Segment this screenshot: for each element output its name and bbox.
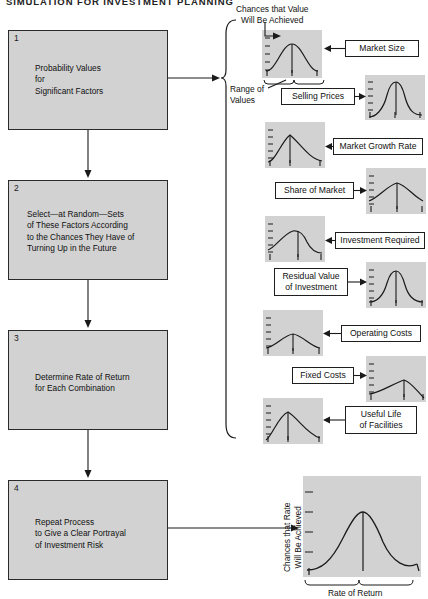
factor-label-share-of-market[interactable]: Share of Market xyxy=(275,182,354,199)
process-box-3-text: Determine Rate of Return for Each Combin… xyxy=(35,372,130,395)
distribution-chart-market-size xyxy=(262,30,322,78)
distribution-chart-share-of-market xyxy=(366,168,426,214)
factor-label-market-size[interactable]: Market Size xyxy=(345,40,419,57)
factor-label-operating-costs[interactable]: Operating Costs xyxy=(341,325,421,342)
factor-label-useful-life[interactable]: Useful Life of Facilities xyxy=(345,406,417,434)
distribution-chart-market-growth-rate xyxy=(265,122,325,168)
distribution-chart-residual-value xyxy=(366,262,426,308)
process-box-2-number: 2 xyxy=(14,183,19,193)
process-box-2[interactable]: 2 Select—at Random—Sets of These Factors… xyxy=(8,180,168,280)
page-title: SIMULATION FOR INVESTMENT PLANNING xyxy=(6,0,234,7)
distribution-chart-fixed-costs xyxy=(366,356,426,402)
factor-label-investment-required[interactable]: Investment Required xyxy=(335,232,425,249)
process-box-3-number: 3 xyxy=(14,333,19,343)
process-box-4-text: Repeat Process to Give a Clear Portrayal… xyxy=(35,517,126,551)
factor-label-market-growth-rate[interactable]: Market Growth Rate xyxy=(333,138,423,155)
distribution-chart-investment-required xyxy=(265,216,325,262)
distribution-chart-operating-costs xyxy=(263,310,323,356)
rate-of-return-distribution-chart xyxy=(303,476,421,577)
range-of-values-annotation: Range of Values xyxy=(230,84,264,105)
process-box-4-number: 4 xyxy=(14,483,19,493)
process-box-2-text: Select—at Random—Sets of These Factors A… xyxy=(27,209,134,255)
process-box-1-text: Probability Values for Significant Facto… xyxy=(35,63,103,97)
chances-that-value-annotation: Chances that Value Will Be Achieved xyxy=(236,4,308,25)
big-chart-ylabel: Chances that Rate Will Be Achieved xyxy=(282,503,303,572)
distribution-chart-useful-life xyxy=(263,398,323,444)
process-box-4[interactable]: 4 Repeat Process to Give a Clear Portray… xyxy=(8,480,168,580)
process-box-1[interactable]: 1 Probability Values for Significant Fac… xyxy=(8,30,168,130)
big-chart-xlabel: Rate of Return xyxy=(328,588,382,599)
distribution-chart-selling-prices xyxy=(365,75,425,120)
factor-label-residual-value[interactable]: Residual Value of Investment xyxy=(274,268,348,296)
factor-label-fixed-costs[interactable]: Fixed Costs xyxy=(292,367,354,384)
process-box-3[interactable]: 3 Determine Rate of Return for Each Comb… xyxy=(8,330,168,430)
process-box-1-number: 1 xyxy=(14,33,19,43)
factor-label-selling-prices[interactable]: Selling Prices xyxy=(281,88,355,105)
